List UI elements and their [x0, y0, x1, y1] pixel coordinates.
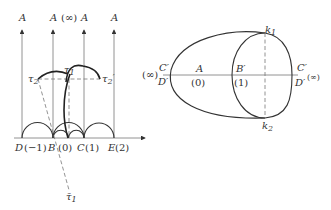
label-tau2-prime: τ2′ — [102, 72, 115, 86]
label-right-d-prime: D′ — [294, 77, 306, 88]
label-a: A — [195, 63, 203, 74]
label-k1: k1 — [265, 24, 276, 37]
left-diagram: A A (∞) A A τ1 τ2 τ2′ τ̄1 D (−1) B (0) C… — [14, 12, 145, 204]
label-b-value: (1) — [234, 77, 248, 88]
label-d-value: (−1) — [24, 142, 47, 153]
label-infinity: (∞) — [61, 12, 77, 23]
label-left-infinity: (∞) — [142, 69, 158, 80]
label-c: C — [77, 142, 85, 153]
label-left-d-prime: D′ — [157, 76, 169, 87]
label-e-value: (2) — [115, 142, 129, 153]
label-b-value: (0) — [58, 142, 72, 153]
label-d: D — [14, 142, 23, 153]
label-right-c-prime: C′ — [297, 62, 308, 73]
label-right-infinity: (∞) — [307, 73, 320, 82]
semicircle-mid-c — [69, 130, 85, 138]
semicircle-d-b — [22, 123, 53, 138]
label-b-prime: B′ — [235, 63, 246, 74]
label-left-c-prime: C′ — [159, 62, 170, 73]
label-a-value: (0) — [191, 77, 205, 88]
label-a-4: A — [110, 12, 118, 23]
semicircle-c-e — [84, 123, 114, 138]
label-k2: k2 — [262, 120, 273, 133]
label-a-1: A — [18, 12, 26, 23]
inner-circle-arc — [232, 33, 265, 118]
right-diagram: (∞) C′ D′ A (0) B′ (1) C′ D′ (∞) k1 k2 — [142, 24, 320, 133]
label-b: B — [47, 142, 55, 153]
label-tau1-bar: τ̄1 — [66, 191, 77, 204]
figure-canvas: A A (∞) A A τ1 τ2 τ2′ τ̄1 D (−1) B (0) C… — [0, 0, 331, 210]
label-tau2: τ2 — [28, 73, 39, 86]
label-c-value: (1) — [85, 142, 99, 153]
label-a-2: A — [49, 12, 57, 23]
label-a-3: A — [80, 12, 88, 23]
